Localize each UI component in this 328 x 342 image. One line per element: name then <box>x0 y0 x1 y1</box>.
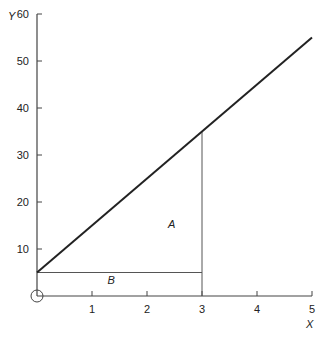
x-tick-label: 1 <box>89 303 95 315</box>
x-tick-label: 2 <box>144 303 150 315</box>
x-tick-label: 3 <box>199 303 205 315</box>
y-tick-label: 10 <box>17 243 29 255</box>
y-axis-title: Y <box>8 10 16 22</box>
series-line <box>37 38 312 273</box>
series <box>37 38 312 273</box>
y-tick-label: 20 <box>17 196 29 208</box>
labels: Y X A B <box>8 10 314 330</box>
y-tick-label: 30 <box>17 149 29 161</box>
region-b-label: B <box>108 274 115 286</box>
x-tick-label: 4 <box>254 303 260 315</box>
region-a-label: A <box>167 218 175 230</box>
y-tick-label: 40 <box>17 102 29 114</box>
x-tick-label: 5 <box>309 303 315 315</box>
y-tick-label: 60 <box>17 8 29 20</box>
guide-lines <box>31 132 202 303</box>
chart: 10203040506012345 Y X A B <box>0 0 328 342</box>
x-axis-title: X <box>305 318 314 330</box>
y-tick-label: 50 <box>17 55 29 67</box>
